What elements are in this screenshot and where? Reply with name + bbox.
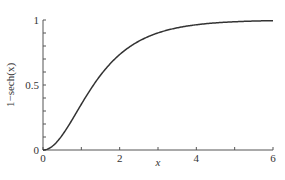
y-axis-title: 1−sech(x) (4, 63, 17, 107)
tick-marks (43, 20, 273, 150)
x-axis-title: x (155, 156, 161, 168)
tick-labels: 024600.51 (25, 14, 276, 164)
x-tick-label: 0 (40, 152, 46, 164)
data-line (43, 21, 273, 150)
x-tick-label: 4 (194, 152, 200, 164)
axes (43, 20, 273, 150)
x-tick-label: 6 (270, 152, 276, 164)
chart: 024600.51 x 1−sech(x) (0, 0, 285, 180)
x-tick-label: 2 (117, 152, 123, 164)
y-tick-label: 0.5 (25, 79, 39, 91)
y-tick-label: 1 (34, 14, 40, 26)
y-tick-label: 0 (34, 144, 40, 156)
